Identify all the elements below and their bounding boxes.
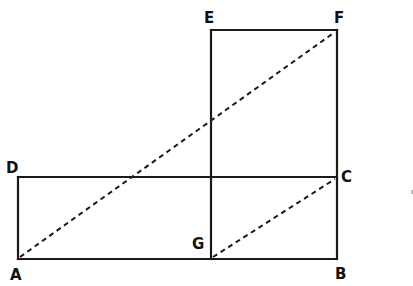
label-e: E	[204, 9, 214, 27]
label-g: G	[192, 235, 204, 253]
dashed-diagonal-af	[20, 32, 335, 257]
label-f: F	[334, 9, 344, 27]
dashed-diagonal-gc	[213, 179, 335, 257]
label-a: A	[10, 266, 22, 284]
label-b: B	[335, 265, 346, 283]
label-c: C	[341, 168, 352, 186]
label-d: D	[6, 159, 18, 177]
geometry-diagram: A B C D E F G	[0, 0, 413, 286]
